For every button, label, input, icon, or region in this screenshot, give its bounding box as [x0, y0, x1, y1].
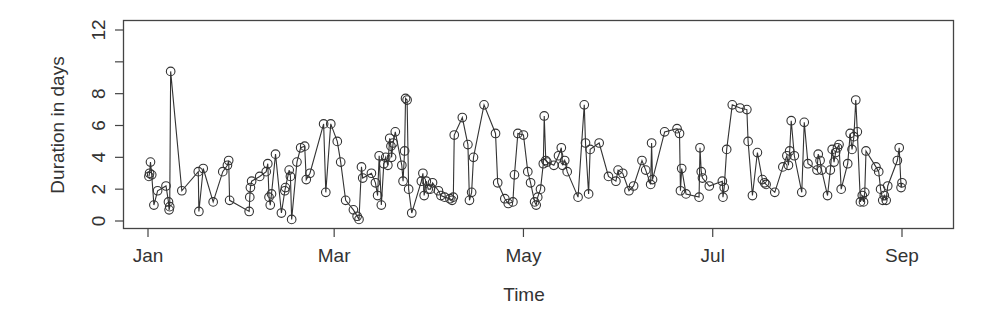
y-tick-label: 12	[88, 19, 109, 40]
x-tick-label: Jul	[701, 245, 725, 266]
x-tick-label: Sep	[885, 245, 919, 266]
y-axis: 0246812	[88, 19, 123, 226]
y-tick-label: 4	[88, 152, 109, 163]
y-tick-label: 2	[88, 184, 109, 195]
plot-area	[124, 21, 954, 229]
x-axis-title: Time	[503, 284, 545, 305]
data-series	[145, 67, 907, 224]
y-tick-label: 8	[88, 88, 109, 99]
y-tick-label: 6	[88, 120, 109, 131]
x-tick-label: May	[505, 245, 541, 266]
series-line	[149, 71, 902, 219]
y-tick-label: 0	[88, 216, 109, 227]
plot-frame	[124, 21, 954, 229]
y-axis-title: Duration in days	[47, 56, 68, 193]
x-axis: JanMarMayJulSep	[133, 229, 919, 267]
line-chart: 0246812 JanMarMayJulSep Time Duration in…	[0, 0, 1001, 315]
x-tick-label: Jan	[133, 245, 164, 266]
x-tick-label: Mar	[318, 245, 351, 266]
